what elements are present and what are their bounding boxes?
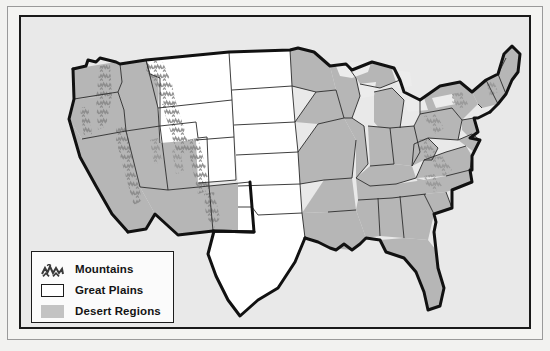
legend-label-mountains: Mountains [75,263,133,275]
map-legend: Mountains Great Plains Desert Regions [31,251,174,323]
gray-box-swatch-icon [41,305,64,318]
mountain-hatch-swatch-icon [41,263,64,276]
legend-label-great-plains: Great Plains [75,284,143,296]
legend-label-desert-regions: Desert Regions [75,305,161,317]
legend-item-great-plains: Great Plains [41,280,173,300]
white-box-swatch-icon [41,284,64,297]
legend-item-desert-regions: Desert Regions [41,301,173,321]
map-figure: Mountains Great Plains Desert Regions [0,0,550,351]
legend-item-mountains: Mountains [41,259,173,279]
